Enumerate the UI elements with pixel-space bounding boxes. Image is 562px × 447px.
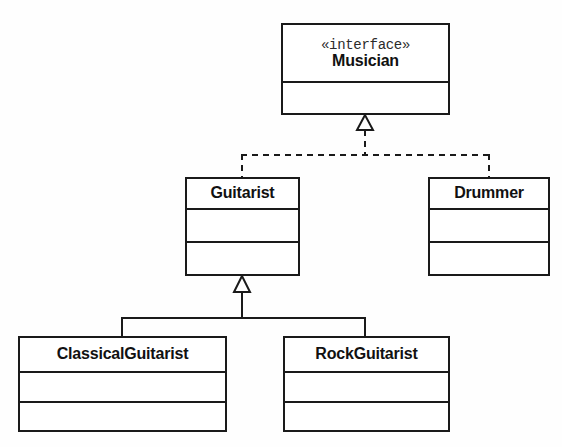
class-name-label-rock-guitarist: RockGuitarist xyxy=(315,346,417,363)
generalization-edge-guitarist xyxy=(121,276,366,336)
realization-edge-musician xyxy=(241,115,490,177)
class-box-rock-guitarist[interactable]: RockGuitarist xyxy=(283,336,450,432)
class-operations-compartment-guitarist xyxy=(187,241,298,274)
class-name-label-classical-guitarist: ClassicalGuitarist xyxy=(57,346,189,363)
class-box-musician[interactable]: «interface» Musician xyxy=(281,23,450,115)
uml-class-diagram: «interface» Musician Guitarist Drummer C… xyxy=(0,0,562,447)
class-attributes-compartment-drummer xyxy=(430,208,548,241)
class-attributes-compartment-rock-guitarist xyxy=(285,371,448,401)
class-attributes-compartment-classical-guitarist xyxy=(20,371,225,401)
class-attributes-compartment-guitarist xyxy=(187,208,298,241)
class-name-label-drummer: Drummer xyxy=(454,185,524,202)
hollow-triangle-arrowhead-guitarist xyxy=(234,276,250,292)
class-name-compartment-musician: «interface» Musician xyxy=(283,25,448,81)
class-box-classical-guitarist[interactable]: ClassicalGuitarist xyxy=(18,336,227,432)
class-operations-compartment-classical-guitarist xyxy=(20,401,225,430)
class-name-compartment-guitarist: Guitarist xyxy=(187,179,298,208)
class-name-compartment-drummer: Drummer xyxy=(430,179,548,208)
class-members-compartment-musician xyxy=(283,81,448,113)
class-name-compartment-rock-guitarist: RockGuitarist xyxy=(285,338,448,371)
class-name-label-musician: Musician xyxy=(332,53,399,70)
class-box-drummer[interactable]: Drummer xyxy=(428,177,550,276)
class-operations-compartment-drummer xyxy=(430,241,548,274)
class-box-guitarist[interactable]: Guitarist xyxy=(185,177,300,276)
class-name-compartment-classical-guitarist: ClassicalGuitarist xyxy=(20,338,225,371)
hollow-triangle-arrowhead-musician xyxy=(357,115,373,130)
class-name-label-guitarist: Guitarist xyxy=(211,185,275,202)
class-operations-compartment-rock-guitarist xyxy=(285,401,448,430)
stereotype-label-musician: «interface» xyxy=(321,38,410,53)
